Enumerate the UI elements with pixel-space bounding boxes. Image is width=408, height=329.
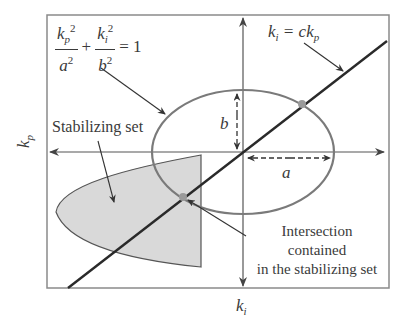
stabilizing-set-region	[56, 155, 201, 267]
ellipse-equation: kp2 a2 + ki2 b2 = 1	[55, 18, 146, 76]
intersection-note-line2: contained	[246, 241, 388, 260]
line-equation: ki = ckp	[268, 22, 319, 43]
intersection-note: Intersection contained in the stabilizin…	[246, 222, 388, 279]
y-axis-label: kp	[14, 135, 35, 148]
stabilizing-set-label: Stabilizing set	[52, 118, 143, 136]
line-equation-pointer	[304, 43, 343, 71]
intersection-dot-upper	[298, 100, 306, 108]
semi-axis-a-label: a	[282, 163, 291, 183]
x-axis-label: ki	[236, 296, 247, 317]
intersection-note-line1: Intersection	[246, 222, 388, 241]
intersection-note-line3: in the stabilizing set	[246, 260, 388, 279]
intersection-dot-lower	[179, 193, 187, 201]
semi-axis-b-label: b	[220, 114, 229, 134]
